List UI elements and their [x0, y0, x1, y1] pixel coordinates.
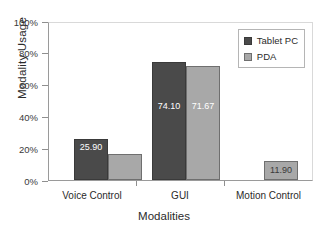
y-tick-label-0: 0% [0, 177, 38, 187]
plot-area: 25.90 16.42 74.10 71.67 11.90 Tablet PC … [48, 22, 313, 181]
x-axis-title: Modalities [0, 210, 328, 222]
bar-value-label: 25.90 [75, 143, 107, 152]
bar-value-label: 11.90 [265, 166, 297, 175]
bar-voice-control-pda: 16.42 [108, 154, 142, 180]
x-tick-label-voice-control: Voice Control [48, 190, 136, 201]
legend-label: PDA [257, 51, 277, 62]
bar-motion-control-pda: 11.90 [264, 161, 298, 180]
legend-swatch-icon [244, 53, 252, 61]
bar-gui-tablet-pc: 74.10 [152, 62, 186, 180]
y-tick-label-100: 100% [0, 18, 38, 28]
x-tick-label-motion-control: Motion Control [224, 190, 313, 201]
bar-value-label: 16.42 [109, 143, 141, 152]
legend-item-pda: PDA [244, 50, 298, 63]
bar-gui-pda: 71.67 [186, 66, 220, 180]
x-tick-label-gui: GUI [136, 190, 224, 201]
legend-swatch-icon [244, 37, 252, 45]
x-tick-mark [136, 181, 137, 186]
y-tick-label-80: 80% [0, 49, 38, 59]
legend-label: Tablet PC [257, 35, 298, 46]
y-tick-label-60: 60% [0, 81, 38, 91]
bar-value-label: 71.67 [187, 102, 219, 111]
legend-item-tablet-pc: Tablet PC [244, 34, 298, 47]
y-tick-mark [42, 181, 48, 182]
bar-value-label: 74.10 [153, 102, 185, 111]
bar-voice-control-tablet-pc: 25.90 [74, 139, 108, 180]
bar-chart: Modality Usage 100% 80% 60% 40% 20% 0% 2… [0, 0, 328, 234]
x-tick-mark [224, 181, 225, 186]
legend: Tablet PC PDA [238, 29, 305, 68]
y-tick-label-20: 20% [0, 145, 38, 155]
y-tick-label-40: 40% [0, 113, 38, 123]
